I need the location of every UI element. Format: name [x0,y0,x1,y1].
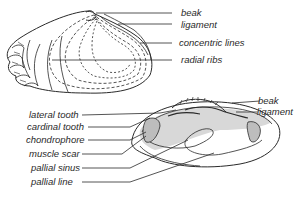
label-ligament-exterior: ligament [181,20,217,30]
label-radial-ribs: radial ribs [181,55,222,65]
label-muscle-scar: muscle scar [29,149,80,159]
label-pallial-sinus: pallial sinus [31,163,80,173]
label-chondrophore: chondrophore [26,135,85,145]
label-lateral-tooth: lateral tooth [29,110,79,120]
label-pallial-line: pallial line [31,177,73,187]
label-cardinal-tooth: cardinal tooth [27,122,84,132]
label-concentric-lines: concentric lines [179,38,244,48]
label-beak-interior: beak [258,96,279,106]
label-beak-exterior: beak [181,8,202,18]
exterior-shell-drawing [7,11,152,94]
label-ligament-interior: ligament [257,107,293,117]
